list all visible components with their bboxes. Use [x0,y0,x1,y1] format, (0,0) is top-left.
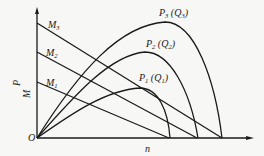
x-axis-arrow-icon [246,136,254,140]
x-axis-label: n [145,143,150,154]
y-axis-label: P M [11,80,32,99]
label-m3: M3 [47,19,60,31]
origin-label: O [28,132,35,143]
label-p1-q1: P1 (Q1) [138,72,169,84]
y-axis-arrow-icon [35,7,39,14]
label-m1: M1 [45,77,58,89]
label-p2-q2: P2 (Q2) [145,38,176,50]
power-torque-diagram: M3 M2 M1 P3 (Q3) P2 (Q2) P1 (Q1) O n P M [0,0,264,156]
label-m2: M2 [45,47,58,59]
torque-line-m2 [37,52,197,138]
label-p3-q3: P3 (Q3) [158,7,189,19]
svg-text:P: P [11,80,22,87]
svg-text:M: M [21,89,32,99]
